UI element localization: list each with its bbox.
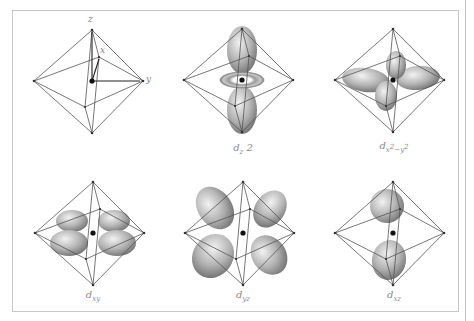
label-dxz: dxz [387, 289, 401, 303]
orbital-figure [0, 0, 474, 321]
panel-dyz [183, 179, 295, 286]
label-dz2: dz 2 [233, 142, 253, 156]
label-dx2-y2: dx2−y2 [379, 140, 408, 154]
label-dyz: dyz [236, 289, 250, 303]
panel-dx2-y2 [334, 28, 446, 134]
panel-dxy [34, 181, 146, 287]
metal-center [89, 78, 94, 83]
panel-dxz [334, 181, 446, 287]
axis-label-y: y [146, 74, 151, 84]
panel-axes [33, 29, 145, 135]
axis-label-x: x [100, 45, 105, 55]
panel-dz2 [183, 26, 295, 134]
axis-label-z: z [88, 14, 93, 24]
label-dxy: dxy [86, 289, 100, 303]
